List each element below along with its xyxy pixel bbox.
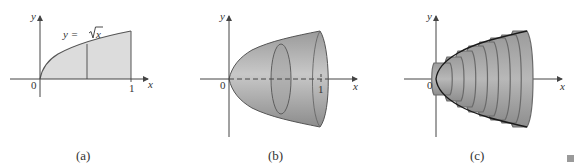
y-axis-label: y — [426, 10, 432, 22]
figure-canvas: y x 0 1 y = x (a) y x 0 1 (b) — [0, 0, 577, 167]
approximating-cylinders — [432, 31, 533, 127]
x-axis-label: x — [147, 78, 153, 90]
caption-c: (c) — [470, 148, 484, 163]
x-axis-label: x — [559, 80, 565, 92]
panel-b: y x 0 1 (b) — [200, 10, 358, 163]
origin-label: 0 — [31, 79, 37, 91]
panel-c: y x 0 (c) — [404, 10, 565, 163]
x-tick-1-label: 1 — [318, 83, 324, 95]
curve-equation-label: y = x — [62, 27, 103, 40]
y-axis-label: y — [219, 10, 225, 22]
curve-label-radicand: x — [95, 28, 101, 40]
origin-label: 0 — [220, 79, 226, 91]
x-tick-1-label: 1 — [129, 82, 135, 94]
shaded-region — [40, 31, 131, 79]
end-marker-icon — [567, 155, 574, 162]
origin-label: 0 — [427, 79, 433, 91]
caption-a: (a) — [76, 148, 90, 163]
y-axis-label: y — [30, 10, 36, 22]
x-axis-label: x — [352, 80, 358, 92]
panel-a: y x 0 1 y = x (a) — [10, 10, 153, 163]
caption-b: (b) — [268, 148, 283, 163]
curve-label-prefix: y = — [62, 28, 78, 40]
